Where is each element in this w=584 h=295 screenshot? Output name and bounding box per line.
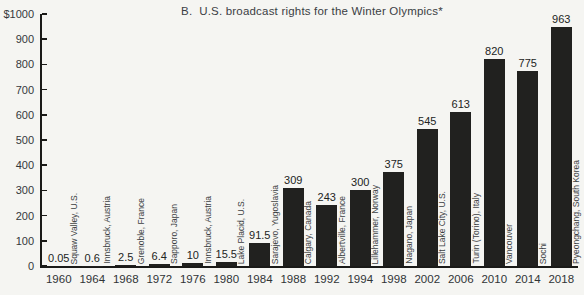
host-city-label: Calgary, Canada [304, 201, 313, 264]
y-axis-label: 200 [16, 210, 34, 222]
bar-value-label: 309 [284, 175, 302, 186]
bar [517, 71, 538, 266]
bar [216, 262, 237, 266]
x-axis-year-label: 1994 [347, 273, 373, 285]
bar-value-label: 0.6 [85, 253, 100, 264]
bar [450, 112, 471, 266]
bar [182, 263, 203, 266]
x-axis-year-label: 1998 [381, 273, 407, 285]
host-city-label: Pyeongchang, South Korea [572, 160, 581, 264]
host-city-label: Salt Lake City, U.S. [438, 191, 447, 264]
bar-group-1960: 0.05Squaw Valley, U.S.1960 [42, 14, 76, 266]
x-axis-year-label: 1960 [46, 273, 72, 285]
host-city-label: Nagano, Japan [405, 206, 414, 264]
y-axis-tick [42, 190, 47, 192]
bar-value-label: 91.5 [249, 230, 270, 241]
x-axis-year-label: 1972 [146, 273, 172, 285]
bar-group-1976: 10Innsbruck, Austria1976 [176, 14, 210, 266]
bar-value-label: 375 [385, 159, 403, 170]
host-city-label: Grenoble, France [137, 198, 146, 264]
y-axis-tick [42, 38, 47, 40]
bar-value-label: 545 [418, 116, 436, 127]
bar-group-1984: 91.5Sarajevo, Yugoslavia1984 [243, 14, 277, 266]
bar-group-1980: 15.5Lake Placid, U.S.1980 [210, 14, 244, 266]
host-city-label: Innsbruck, Austria [103, 196, 112, 264]
y-axis-tick [42, 13, 47, 15]
x-axis-year-label: 1968 [113, 273, 139, 285]
x-axis-year-label: 1964 [79, 273, 105, 285]
x-axis-year-label: 1984 [247, 273, 273, 285]
bar-group-2014: 775Sochi2014 [511, 14, 545, 266]
host-city-label: Lillehammer, Norway [371, 185, 380, 264]
y-axis-label: 900 [16, 33, 34, 45]
y-axis-tick [42, 139, 47, 141]
bar-value-label: 243 [318, 192, 336, 203]
bar [115, 265, 136, 266]
bar-group-2002: 545Salt Lake City, U.S.2002 [411, 14, 445, 266]
bar-value-label: 775 [519, 58, 537, 69]
x-axis-year-label: 2014 [515, 273, 541, 285]
bar [149, 264, 170, 266]
x-axis-year-label: 2010 [481, 273, 507, 285]
bar-value-label: 15.5 [216, 249, 237, 260]
y-axis-tick [42, 240, 47, 242]
x-axis-year-label: 2006 [448, 273, 474, 285]
bar-value-label: 10 [187, 250, 199, 261]
bar [350, 190, 371, 266]
y-axis-label: 500 [16, 134, 34, 146]
x-axis-year-label: 1976 [180, 273, 206, 285]
bar-group-2018: 963Pyeongchang, South Korea2018 [545, 14, 579, 266]
bar-value-label: 963 [552, 14, 570, 25]
y-axis-tick [42, 164, 47, 166]
x-axis-year-label: 1988 [280, 273, 306, 285]
y-axis-tick [42, 215, 47, 217]
bar-group-1972: 6.4Sapporo, Japan1972 [143, 14, 177, 266]
x-axis-year-label: 1992 [314, 273, 340, 285]
bar-group-1998: 375Nagano, Japan1998 [377, 14, 411, 266]
bar-group-1994: 300Lillehammer, Norway1994 [344, 14, 378, 266]
bar-group-1964: 0.6Innsbruck, Austria1964 [76, 14, 110, 266]
host-city-label: Innsbruck, Austria [204, 196, 213, 264]
bar [484, 59, 505, 266]
x-axis-year-label: 2018 [548, 273, 574, 285]
bar-series: 0.05Squaw Valley, U.S.19600.6Innsbruck, … [42, 14, 578, 266]
plot-area: 0.05Squaw Valley, U.S.19600.6Innsbruck, … [40, 14, 578, 268]
x-axis-year-label: 1980 [213, 273, 239, 285]
y-axis-tick [42, 89, 47, 91]
bar-value-label: 613 [452, 99, 470, 110]
bar [316, 205, 337, 266]
bar-value-label: 300 [351, 177, 369, 188]
host-city-label: Sarajevo, Yugoslavia [271, 185, 280, 264]
bar-group-1988: 309Calgary, Canada1988 [277, 14, 311, 266]
host-city-label: Squaw Valley, U.S. [70, 193, 79, 265]
y-axis-label: 0 [28, 260, 34, 272]
y-axis-label: 400 [16, 159, 34, 171]
host-city-label: Vancouver [505, 224, 514, 264]
bar-value-label: 6.4 [152, 251, 167, 262]
y-axis-label: 600 [16, 109, 34, 121]
y-axis-label: 800 [16, 58, 34, 70]
host-city-label: Lake Placid, U.S. [237, 199, 246, 264]
bar-value-label: 820 [485, 46, 503, 57]
y-axis-tick [42, 265, 47, 267]
bar-group-2010: 820Vancouver2010 [478, 14, 512, 266]
bar-group-1968: 2.5Grenoble, France1968 [109, 14, 143, 266]
bar [551, 27, 572, 266]
y-axis-tick [42, 64, 47, 66]
y-axis-tick [42, 114, 47, 116]
bar [249, 243, 270, 266]
bar [417, 129, 438, 266]
bar-group-1992: 243Albertville, France1992 [310, 14, 344, 266]
bar-value-label: 0.05 [48, 253, 69, 264]
host-city-label: Sochi [539, 243, 548, 264]
host-city-label: Sapporo, Japan [170, 204, 179, 264]
bar [283, 188, 304, 266]
host-city-label: Turin (Torino), Italy [472, 193, 481, 264]
x-axis-year-label: 2002 [414, 273, 440, 285]
y-axis-label: 300 [16, 184, 34, 196]
y-axis-label: 100 [16, 235, 34, 247]
y-axis-label: $1000 [3, 8, 34, 20]
bar-group-2006: 613Turin (Torino), Italy2006 [444, 14, 478, 266]
winter-olympics-broadcast-rights-chart: B. U.S. broadcast rights for the Winter … [0, 0, 584, 295]
y-axis-label: 700 [16, 84, 34, 96]
